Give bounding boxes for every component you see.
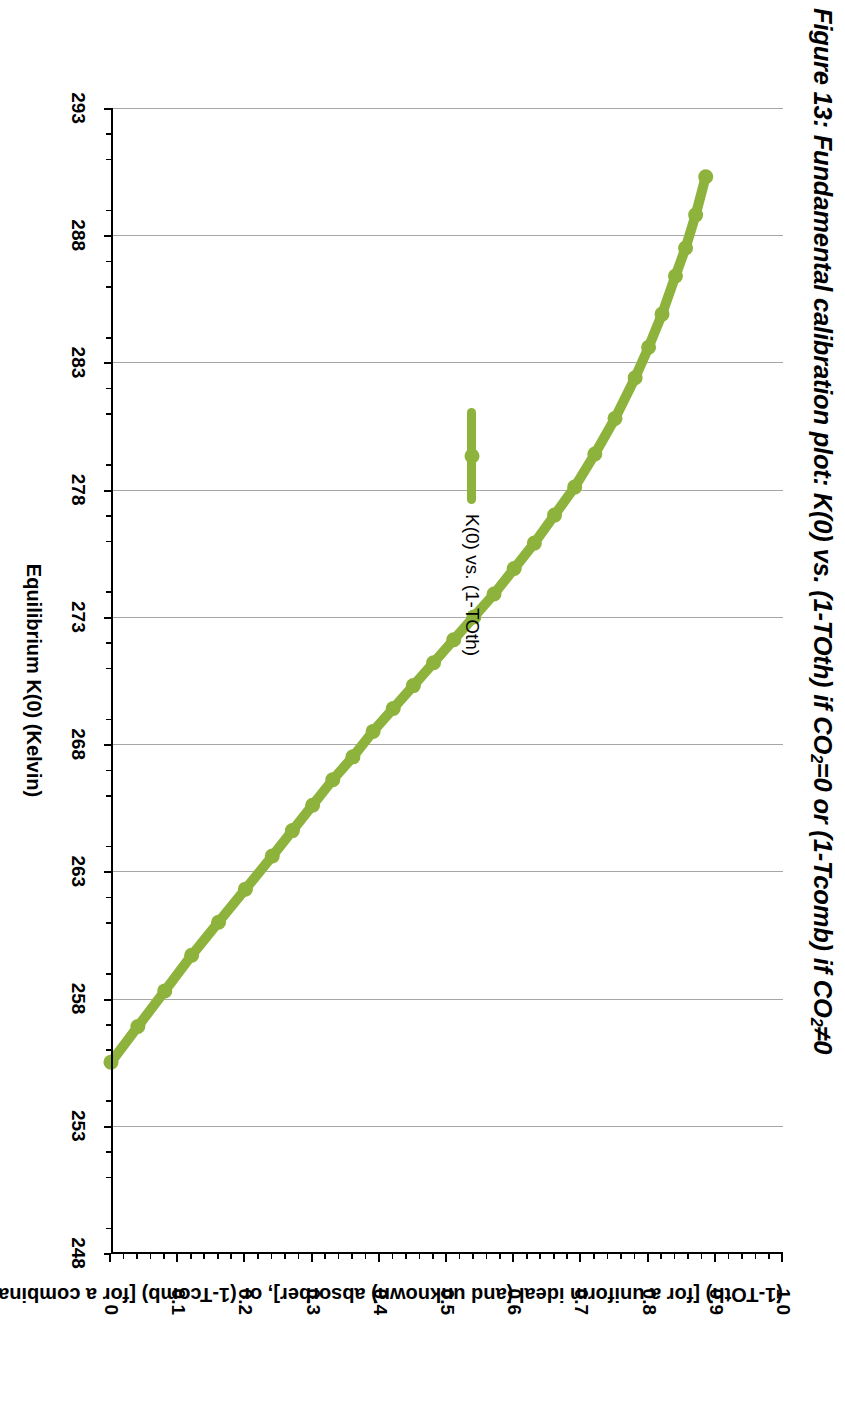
y-minor-tick [107, 1177, 112, 1179]
x-minor-tick [150, 1253, 152, 1259]
x-minor-tick [620, 1253, 622, 1259]
data-point-marker [641, 340, 656, 355]
x-minor-tick [351, 1253, 353, 1259]
y-minor-tick [107, 795, 112, 797]
data-point-marker [366, 724, 381, 739]
y-minor-tick [107, 515, 112, 517]
figure-title: Figure 13: Fundamental calibration plot:… [807, 8, 837, 1188]
x-minor-tick [204, 1253, 206, 1259]
data-point-marker [655, 307, 670, 322]
legend[interactable]: K(0) vs. (1-TOth) [461, 408, 483, 656]
data-point-marker [608, 411, 623, 426]
data-point-marker [265, 849, 280, 864]
legend-label-k0-vs-1-toth: K(0) vs. (1-TOth) [461, 514, 483, 656]
y-minor-tick [107, 846, 112, 848]
x-minor-tick [459, 1253, 461, 1259]
data-point-marker [325, 772, 340, 787]
y-minor-tick [107, 337, 112, 339]
y-minor-tick [107, 388, 112, 390]
x-tick-0.1 [176, 1253, 178, 1262]
x-axis-title: (1-TOth) [for a uniform ideal (and unkno… [0, 1278, 783, 1306]
data-point-marker [587, 447, 602, 462]
x-minor-tick [190, 1253, 192, 1259]
x-minor-tick [687, 1253, 689, 1259]
y-minor-tick [107, 108, 112, 110]
y-minor-tick [107, 286, 112, 288]
data-point-marker [487, 586, 502, 601]
y-minor-tick [107, 668, 112, 670]
x-minor-tick [701, 1253, 703, 1259]
series-line-K(0) vs. (1-TOth) [111, 177, 706, 1062]
data-point-marker [688, 207, 703, 222]
y-minor-tick [107, 541, 112, 543]
data-point-marker [238, 882, 253, 897]
y-tick-label-278: 278 [67, 474, 89, 506]
x-minor-tick [674, 1253, 676, 1259]
x-tick-0.3 [311, 1253, 313, 1262]
y-tick-label-268: 268 [67, 728, 89, 760]
y-minor-tick [107, 744, 112, 746]
x-minor-tick [540, 1253, 542, 1259]
y-minor-tick [107, 464, 112, 466]
y-minor-tick [107, 210, 112, 212]
x-minor-tick [392, 1253, 394, 1259]
data-point-marker [527, 536, 542, 551]
data-point-marker [567, 480, 582, 495]
x-minor-tick [298, 1253, 300, 1259]
y-minor-tick [107, 1049, 112, 1051]
x-minor-tick [553, 1253, 555, 1259]
figure-title-subscript-1: 2 [808, 754, 825, 763]
y-tick-label-293: 293 [67, 92, 89, 124]
y-minor-tick [107, 642, 112, 644]
data-point-marker [130, 1019, 145, 1034]
x-minor-tick [741, 1253, 743, 1259]
value-axis-line [111, 108, 114, 1253]
data-point-marker [698, 169, 713, 184]
x-minor-tick [405, 1253, 407, 1259]
y-tick-label-273: 273 [67, 601, 89, 633]
x-tick-0 [109, 1253, 111, 1262]
y-minor-tick [107, 871, 112, 873]
data-point-marker [678, 240, 693, 255]
x-minor-tick [365, 1253, 367, 1259]
legend-swatch-k0-vs-1-toth [468, 408, 477, 504]
y-tick-label-263: 263 [67, 855, 89, 887]
figure-title-suffix: ≠0 [809, 1026, 837, 1054]
data-point-marker [157, 983, 172, 998]
x-minor-tick [472, 1253, 474, 1259]
data-point-marker [305, 798, 320, 813]
data-point-marker [507, 561, 522, 576]
category-axis-line [111, 1252, 783, 1255]
x-tick-0.2 [243, 1253, 245, 1262]
y-minor-tick [107, 362, 112, 364]
x-minor-tick [607, 1253, 609, 1259]
y-minor-tick [107, 1228, 112, 1230]
data-point-marker [211, 915, 226, 930]
y-minor-tick [107, 770, 112, 772]
data-point-marker [628, 370, 643, 385]
x-minor-tick [230, 1253, 232, 1259]
y-minor-tick [107, 490, 112, 492]
x-minor-tick [284, 1253, 286, 1259]
x-tick-0.5 [445, 1253, 447, 1262]
x-minor-tick [163, 1253, 165, 1259]
y-minor-tick [107, 1024, 112, 1026]
x-minor-tick [136, 1253, 138, 1259]
x-minor-tick [768, 1253, 770, 1259]
data-point-marker [285, 823, 300, 838]
x-tick-0.6 [512, 1253, 514, 1262]
y-minor-tick [107, 1126, 112, 1128]
x-tick-0.8 [647, 1253, 649, 1262]
data-point-marker [426, 655, 441, 670]
plot-area: 248253258263268273278283288293 00.10.20.… [111, 108, 783, 1253]
data-point-marker [386, 701, 401, 716]
x-minor-tick [419, 1253, 421, 1259]
y-minor-tick [107, 719, 112, 721]
y-minor-tick [107, 999, 112, 1001]
x-minor-tick [593, 1253, 595, 1259]
y-tick-label-283: 283 [67, 347, 89, 379]
y-tick-label-253: 253 [67, 1110, 89, 1142]
data-point-marker [446, 632, 461, 647]
y-tick-label-248: 248 [67, 1237, 89, 1269]
y-minor-tick [107, 159, 112, 161]
